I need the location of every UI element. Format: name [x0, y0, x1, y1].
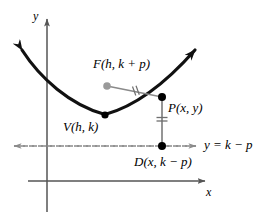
vertex-label: V(h, k)	[63, 120, 98, 133]
point-d-label: D(x, k − p)	[134, 155, 192, 168]
y-axis-label: y	[33, 10, 38, 22]
point-p-dot	[158, 93, 166, 101]
point-p-label: P(x, y)	[168, 101, 203, 114]
parabola-diagram-canvas	[0, 0, 278, 219]
focal-radius-tick-marks	[133, 86, 140, 96]
vertex-point-dot	[101, 111, 108, 118]
x-axis-label: x	[206, 186, 211, 198]
focus-label: F(h, k + p)	[93, 57, 150, 70]
directrix-label: y = k − p	[204, 138, 253, 151]
point-d-dot	[158, 142, 166, 150]
parabola-figure: F(h, k + p) P(x, y) V(h, k) y = k − p D(…	[0, 0, 278, 219]
focus-point-dot	[103, 82, 111, 90]
